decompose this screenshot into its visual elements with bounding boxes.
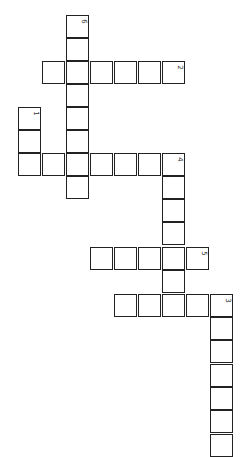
crossword-cell[interactable] [162, 294, 185, 317]
crossword-cell[interactable] [162, 199, 185, 222]
crossword-cell[interactable] [138, 294, 161, 317]
crossword-cell[interactable]: 1 [18, 107, 41, 130]
crossword-cell[interactable]: 2 [162, 61, 185, 84]
crossword-cell[interactable] [114, 247, 137, 270]
clue-number: 2 [175, 65, 182, 69]
crossword-cell[interactable] [90, 247, 113, 270]
crossword-cell[interactable] [210, 434, 233, 457]
crossword-cell[interactable]: 4 [162, 153, 185, 176]
crossword-cell[interactable] [210, 340, 233, 363]
crossword-cell[interactable] [66, 61, 89, 84]
crossword-cell[interactable] [210, 410, 233, 433]
clue-number: 4 [175, 157, 182, 161]
crossword-cell[interactable] [114, 153, 137, 176]
clue-number: 5 [199, 251, 206, 255]
crossword-cell[interactable] [162, 247, 185, 270]
clue-number: 3 [223, 298, 230, 302]
crossword-cell[interactable] [90, 61, 113, 84]
crossword-cell[interactable] [138, 61, 161, 84]
crossword-cell[interactable] [66, 38, 89, 61]
crossword-cell[interactable] [66, 107, 89, 130]
crossword-cell[interactable] [114, 294, 137, 317]
clue-number: 6 [79, 19, 86, 23]
crossword-cell[interactable] [210, 364, 233, 387]
crossword-cell[interactable] [162, 270, 185, 293]
crossword-cell[interactable]: 3 [210, 294, 233, 317]
crossword-cell[interactable] [66, 176, 89, 199]
crossword-cell[interactable] [162, 176, 185, 199]
crossword-cell[interactable] [186, 294, 209, 317]
crossword-cell[interactable] [66, 84, 89, 107]
crossword-cell[interactable] [18, 153, 41, 176]
crossword-cell[interactable] [42, 61, 65, 84]
crossword-cell[interactable] [162, 222, 185, 245]
crossword-cell[interactable] [138, 153, 161, 176]
crossword-cell[interactable] [210, 387, 233, 410]
crossword-cell[interactable] [90, 153, 113, 176]
crossword-cell[interactable] [66, 153, 89, 176]
crossword-cell[interactable] [114, 61, 137, 84]
crossword-cell[interactable]: 6 [66, 15, 89, 38]
crossword-cell[interactable] [18, 130, 41, 153]
crossword-cell[interactable] [66, 130, 89, 153]
crossword-cell[interactable] [42, 153, 65, 176]
clue-number: 1 [31, 111, 38, 115]
crossword-cell[interactable] [210, 317, 233, 340]
crossword-cell[interactable]: 5 [186, 247, 209, 270]
crossword-cell[interactable] [138, 247, 161, 270]
